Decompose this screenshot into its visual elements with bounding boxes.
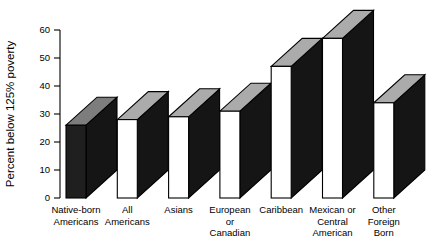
y-tick-label: 30 xyxy=(39,108,50,119)
bar-front-face xyxy=(169,117,189,198)
bar-chart-canvas: 0102030405060Percent below 125% povertyN… xyxy=(0,0,445,246)
category-label: Asians xyxy=(164,204,193,215)
bar-front-face xyxy=(374,103,394,198)
category-label: American xyxy=(312,227,352,238)
category-label: Canadian xyxy=(210,227,251,238)
category-label: Central xyxy=(317,216,348,227)
category-label: Americans xyxy=(54,216,99,227)
bar-front-face xyxy=(66,125,86,198)
category-label: Other xyxy=(372,204,396,215)
y-tick-label: 50 xyxy=(39,52,50,63)
bar-side-face xyxy=(343,10,374,198)
category-label: Born xyxy=(374,227,394,238)
category-label: Foreign xyxy=(368,216,400,227)
bar-front-face xyxy=(323,38,343,198)
y-tick-label: 40 xyxy=(39,80,50,91)
bar-front-face xyxy=(220,111,240,198)
category-label: Caribbean xyxy=(259,204,303,215)
category-label: or xyxy=(226,216,234,227)
bar-front-face xyxy=(271,66,291,198)
y-tick-label: 60 xyxy=(39,24,50,35)
bar-front-face xyxy=(117,120,137,198)
chart-figure: 0102030405060Percent below 125% povertyN… xyxy=(0,0,445,246)
category-label: All xyxy=(122,204,133,215)
y-tick-label: 20 xyxy=(39,136,50,147)
category-label: Americans xyxy=(105,216,150,227)
y-tick-label: 10 xyxy=(39,164,50,175)
y-tick-label: 0 xyxy=(45,192,50,203)
category-label: Mexican or xyxy=(309,204,355,215)
y-axis-title: Percent below 125% poverty xyxy=(4,41,16,188)
category-label: European xyxy=(209,204,250,215)
category-label: Native-born xyxy=(51,204,100,215)
